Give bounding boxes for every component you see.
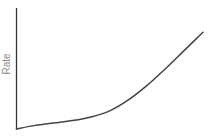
y-axis-label: Rate xyxy=(1,49,13,79)
rate-curve xyxy=(17,32,204,129)
chart: Rate xyxy=(0,0,211,137)
chart-plot xyxy=(0,0,211,137)
